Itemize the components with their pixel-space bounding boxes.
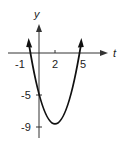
t-axis-label: t: [113, 47, 117, 59]
y-axis-arrow-icon: [36, 24, 42, 32]
tick-label-5: 5: [80, 58, 86, 70]
parabola-graph: y t -1 2 5 -5 -9: [0, 0, 122, 144]
tick-label-neg9: -9: [21, 121, 31, 133]
y-axis-label: y: [33, 8, 41, 20]
tick-label-neg5: -5: [21, 89, 31, 101]
curve-right-arrow-icon: [78, 38, 84, 48]
tick-label-2: 2: [52, 58, 58, 70]
curve-left-arrow-icon: [26, 38, 32, 48]
t-axis-arrow-icon: [100, 50, 108, 56]
tick-label-neg1: -1: [15, 58, 25, 70]
